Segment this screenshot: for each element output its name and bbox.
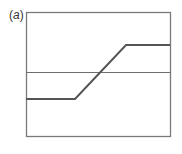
diagram-plot: [0, 0, 182, 154]
